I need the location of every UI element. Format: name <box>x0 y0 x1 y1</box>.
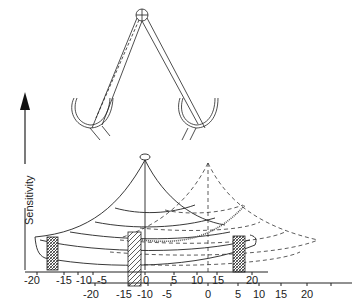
tick-label: -10 <box>76 274 92 286</box>
tick-label: 15 <box>275 288 287 300</box>
tick-label: 5 <box>235 288 241 300</box>
axes <box>25 272 352 286</box>
tick-label: 0 <box>143 274 149 286</box>
tick-label: 0 <box>205 288 211 300</box>
tick-label: 10 <box>253 288 265 300</box>
tick-label: 20 <box>246 274 258 286</box>
tick-label: -5 <box>162 288 172 300</box>
tick-label: -20 <box>83 288 99 300</box>
tick-label: 5 <box>171 274 177 286</box>
sensitivity-diagram: Sensitivity <box>0 0 362 307</box>
y-axis: Sensitivity <box>20 92 35 270</box>
tick-label: -5 <box>97 274 107 286</box>
tick-label: 10 <box>191 274 203 286</box>
blind-spot-contour <box>128 205 245 241</box>
tick-label: 20 <box>301 288 313 300</box>
lower-axis-labels: -20 -15 -10 -5 0 5 10 15 20 <box>83 288 313 300</box>
tick-label: -20 <box>24 274 40 286</box>
tick-label: -15 <box>116 288 132 300</box>
tick-label: -15 <box>56 274 72 286</box>
tick-label: 15 <box>212 274 224 286</box>
blind-spot-right <box>233 236 245 272</box>
top-eye-diagram <box>72 9 218 140</box>
blind-spot-center <box>128 232 141 286</box>
tick-label: -10 <box>137 288 153 300</box>
arrow-up-icon <box>20 92 30 110</box>
blind-spot-left <box>47 237 58 270</box>
solid-hill <box>35 154 256 270</box>
